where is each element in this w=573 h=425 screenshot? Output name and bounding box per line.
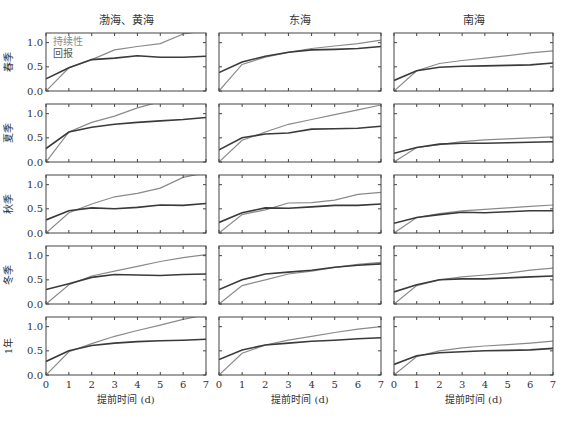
x-tick-label: 0 (43, 379, 49, 390)
x-tick-label: 1 (414, 379, 420, 390)
y-tick-label: 0.0 (27, 228, 43, 239)
x-axis-labels: 提前时间 (d)提前时间 (d)提前时间 (d) (97, 393, 502, 405)
x-tick-label: 2 (262, 379, 268, 390)
x-axis-label: 提前时间 (d) (445, 393, 502, 405)
panel: 0.00.51.001234567 (27, 315, 209, 390)
persistence-line (46, 92, 206, 162)
panel (394, 104, 553, 162)
persistence-line (394, 205, 553, 233)
x-tick-label: 6 (180, 379, 186, 390)
axes-frame (219, 104, 381, 162)
x-tick-label: 7 (550, 379, 556, 390)
persistence-line (219, 105, 381, 162)
axes-frame (219, 317, 381, 375)
panel: 0.00.51.0持续性回报 (27, 31, 206, 97)
row-label: 1年 (2, 338, 14, 354)
y-tick-label: 1.0 (27, 250, 43, 261)
legend-persistence: 持续性 (53, 35, 83, 47)
panel: 0.00.51.0 (27, 92, 206, 168)
panel (219, 104, 381, 162)
column-title: 渤海、黄海 (99, 13, 154, 27)
axes-frame (394, 175, 553, 233)
x-tick-label: 4 (134, 379, 140, 390)
panel (219, 246, 381, 304)
row-labels: 春季夏季秋季冬季1年 (2, 52, 14, 354)
x-tick-label: 7 (203, 379, 209, 390)
y-tick-label: 1.0 (27, 321, 43, 332)
column-titles: 渤海、黄海东海南海 (99, 13, 485, 27)
x-tick-label: 3 (111, 379, 117, 390)
panel (394, 175, 553, 233)
panel (219, 33, 381, 91)
x-tick-label: 1 (239, 379, 245, 390)
x-tick-label: 2 (436, 379, 442, 390)
x-tick-label: 0 (216, 379, 222, 390)
y-tick-label: 1.0 (27, 108, 43, 119)
hindcast-line (394, 142, 553, 154)
y-tick-label: 1.0 (27, 179, 43, 190)
x-tick-label: 0 (391, 379, 397, 390)
panel-grid: 0.00.51.0持续性回报0.00.51.00.00.51.00.00.51.… (27, 31, 556, 390)
hindcast-line (46, 274, 206, 290)
persistence-line (219, 327, 381, 375)
x-tick-label: 7 (378, 379, 384, 390)
column-title: 南海 (463, 13, 485, 27)
x-axis-label: 提前时间 (d) (271, 393, 328, 405)
hindcast-line (46, 339, 206, 361)
hindcast-line (394, 211, 553, 224)
hindcast-line (219, 338, 381, 360)
axes-frame (46, 175, 206, 233)
x-tick-label: 6 (527, 379, 533, 390)
persistence-line (394, 268, 553, 304)
y-tick-label: 0.0 (27, 299, 43, 310)
x-tick-label: 5 (332, 379, 338, 390)
panel (394, 33, 553, 91)
hindcast-line (219, 47, 381, 73)
legend-hindcast: 回报 (53, 47, 73, 59)
y-tick-label: 0.5 (27, 132, 43, 143)
panel: 0.00.51.0 (27, 246, 206, 310)
panel: 01234567 (216, 317, 384, 390)
x-tick-label: 1 (66, 379, 72, 390)
axes-frame (394, 33, 553, 91)
x-tick-label: 5 (157, 379, 163, 390)
y-tick-label: 0.0 (27, 157, 43, 168)
axes-frame (219, 175, 381, 233)
axes-frame (394, 317, 553, 375)
persistence-line (46, 315, 206, 375)
column-title: 东海 (289, 13, 311, 27)
hindcast-line (46, 56, 206, 79)
hindcast-line (219, 126, 381, 150)
row-label: 冬季 (2, 265, 14, 285)
x-tick-label: 3 (459, 379, 465, 390)
row-label: 夏季 (3, 123, 14, 143)
x-tick-label: 4 (482, 379, 488, 390)
axes-frame (46, 104, 206, 162)
y-tick-label: 0.5 (27, 203, 43, 214)
figure-canvas: 渤海、黄海东海南海 春季夏季秋季冬季1年 0.00.51.0持续性回报0.00.… (0, 0, 573, 425)
axes-frame (46, 317, 206, 375)
x-tick-label: 2 (89, 379, 95, 390)
hindcast-line (394, 63, 553, 80)
persistence-line (46, 255, 206, 304)
y-tick-label: 0.0 (27, 370, 43, 381)
y-tick-label: 1.0 (27, 37, 43, 48)
axes-frame (394, 104, 553, 162)
persistence-line (394, 137, 553, 162)
x-tick-label: 4 (308, 379, 314, 390)
row-label: 秋季 (2, 194, 14, 214)
hindcast-line (219, 204, 381, 222)
x-tick-label: 6 (355, 379, 361, 390)
x-tick-label: 3 (285, 379, 291, 390)
persistence-line (219, 262, 381, 304)
panel (219, 175, 381, 233)
panel (394, 246, 553, 304)
panel: 01234567 (391, 317, 556, 390)
axes-frame (219, 246, 381, 304)
y-tick-label: 0.5 (27, 274, 43, 285)
y-tick-label: 0.5 (27, 61, 43, 72)
hindcast-line (46, 118, 206, 149)
axes-frame (394, 246, 553, 304)
persistence-line (46, 173, 206, 233)
row-label: 春季 (3, 52, 14, 72)
